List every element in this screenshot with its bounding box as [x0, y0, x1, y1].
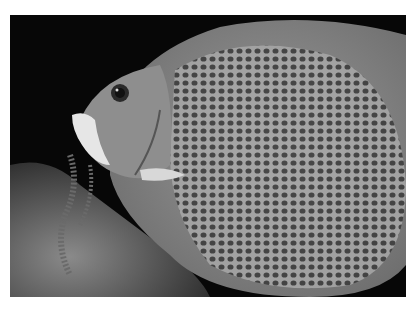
photograph [10, 15, 406, 297]
angelfish-illustration [10, 15, 406, 297]
